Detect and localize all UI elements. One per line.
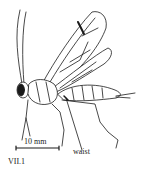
- eye: [18, 84, 25, 96]
- scale-label: 10 mm: [24, 138, 46, 146]
- hindleg: [62, 100, 118, 148]
- thorax: [28, 80, 57, 105]
- wasp-illustration: [0, 0, 142, 171]
- waist-label: waist: [73, 148, 90, 156]
- waist-pointer: [66, 98, 82, 150]
- figure-id: VII.1: [8, 158, 25, 166]
- midleg: [52, 104, 64, 146]
- foreleg: [22, 100, 30, 140]
- antenna: [17, 10, 22, 84]
- antenna: [23, 12, 26, 84]
- scale-bar: [16, 146, 59, 150]
